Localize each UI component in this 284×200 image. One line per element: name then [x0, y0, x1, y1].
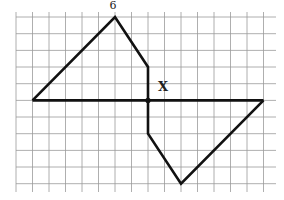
- top-label: 6: [110, 0, 117, 12]
- upper-figure-outline: [33, 17, 149, 100]
- center-point-dot: [145, 98, 150, 103]
- center-point-label: X: [158, 79, 169, 94]
- symmetry-diagram: 6 X: [0, 0, 284, 200]
- lower-figure-outline: [148, 100, 264, 183]
